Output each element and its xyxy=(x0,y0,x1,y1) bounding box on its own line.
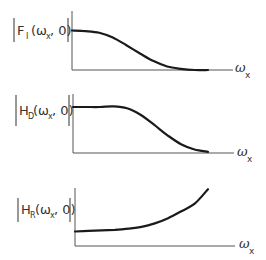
curve-h-r xyxy=(75,189,208,231)
x-axis-label-sub: x xyxy=(245,70,251,80)
y-label-tail: , 0) xyxy=(52,103,74,118)
y-label-args: (ω xyxy=(31,23,47,38)
curve-h-d xyxy=(73,106,208,151)
panel-h-r: H R (ω x , 0) ω x xyxy=(18,188,255,256)
y-label-args: (ω xyxy=(33,103,49,118)
y-label-args: (ω xyxy=(35,202,51,217)
panel-h-d: H D (ω x , 0) ω x xyxy=(16,94,253,164)
y-label-tail: , 0) xyxy=(54,202,76,217)
curve-f-i xyxy=(72,31,208,71)
y-label-sub: I xyxy=(26,32,28,41)
panel-f-i: F I (ω x , 0) ω x xyxy=(14,11,251,80)
diagram-canvas: F I (ω x , 0) ω x H D (ω x , 0) ω x H R … xyxy=(0,0,266,260)
x-axis-label-sub: x xyxy=(249,246,255,256)
y-label-main: F xyxy=(17,23,24,38)
x-axis-label-sub: x xyxy=(247,154,253,164)
